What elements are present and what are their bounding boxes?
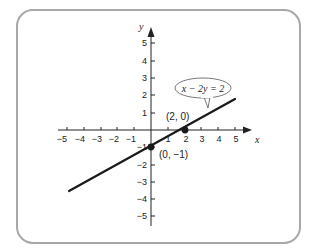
x-tick-label: 4 (216, 134, 221, 144)
x-tick-label: 3 (199, 134, 204, 144)
y-tick-label: −5 (137, 211, 147, 221)
y-tick-label: 3 (142, 73, 147, 83)
point-2-0 (182, 127, 189, 134)
point-0-neg1 (148, 144, 155, 151)
y-tick-label: 4 (142, 56, 147, 66)
equation-label: x − 2y = 2 (181, 83, 224, 94)
x-tick-label: −1 (126, 134, 136, 144)
y-tick-label: 5 (142, 38, 147, 48)
y-tick-label: 2 (142, 90, 147, 100)
y-axis-label: y (138, 21, 144, 32)
graph-figure: x y −5 −4 −3 −2 −1 1 2 3 4 5 (0, 0, 314, 252)
x-axis-label: x (254, 134, 260, 145)
x-tick-label: 2 (183, 134, 188, 144)
y-tick-label: 1 (142, 108, 147, 118)
point-0-neg1-label: (0, −1) (159, 149, 188, 160)
x-tick-label: −3 (92, 134, 102, 144)
x-tick-label: −2 (109, 134, 119, 144)
y-tick-label: −4 (137, 194, 147, 204)
x-tick-label: 5 (233, 134, 238, 144)
point-2-0-label: (2, 0) (166, 111, 189, 122)
x-tick-label: −4 (75, 134, 85, 144)
y-tick-label: −3 (137, 177, 147, 187)
figure-frame (17, 10, 300, 243)
y-tick-label: −2 (137, 160, 147, 170)
x-tick-label: −5 (57, 134, 67, 144)
